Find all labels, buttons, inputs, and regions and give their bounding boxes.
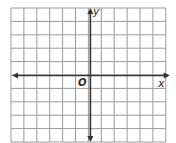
x-axis-label: x [158,78,165,89]
origin-label: O [78,78,87,88]
arrow-left-icon [12,73,18,79]
y-axis-label: y [93,6,100,17]
coordinate-plane [0,0,176,143]
axes [12,8,170,142]
